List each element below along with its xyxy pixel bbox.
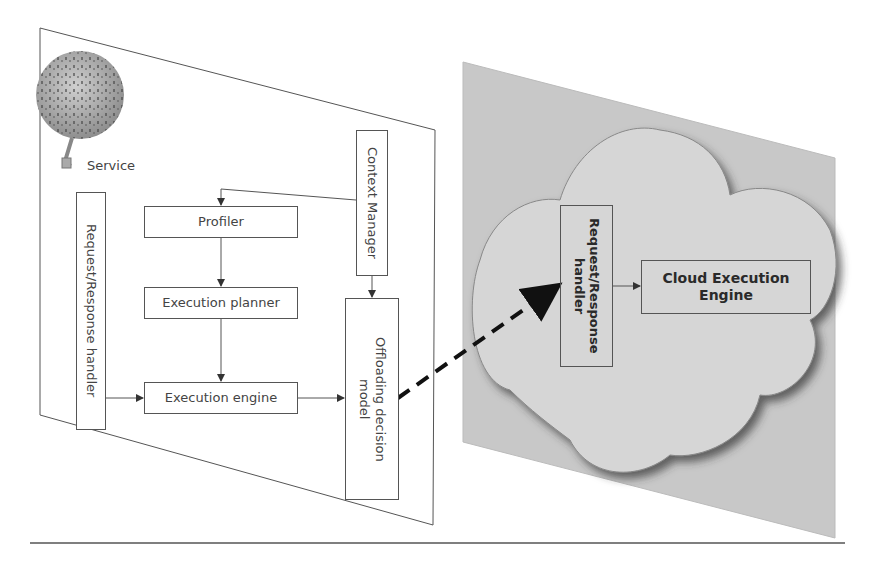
execution-planner-box: Execution planner	[144, 287, 298, 319]
cloud-request-response-handler-label: Request/Response handler	[571, 216, 602, 356]
execution-engine-box: Execution engine	[144, 382, 298, 414]
execution-engine-label: Execution engine	[165, 390, 277, 406]
context-manager-box: Context Manager	[356, 130, 388, 276]
offloading-decision-model-box: Offloading decision model	[345, 298, 399, 500]
execution-planner-label: Execution planner	[162, 295, 280, 311]
mobile-request-response-handler-label: Request/Response handler	[83, 224, 99, 397]
mobile-request-response-handler: Request/Response handler	[76, 192, 106, 430]
context-manager-label: Context Manager	[364, 147, 380, 259]
service-label: Service	[87, 158, 135, 173]
cloud-execution-engine-label: Cloud Execution Engine	[661, 270, 791, 304]
offloading-decision-model-label: Offloading decision model	[356, 324, 387, 474]
profiler-label: Profiler	[198, 214, 244, 230]
cloud-request-response-handler: Request/Response handler	[560, 205, 613, 367]
profiler-box: Profiler	[144, 206, 298, 238]
cloud-execution-engine-box: Cloud Execution Engine	[641, 260, 811, 314]
